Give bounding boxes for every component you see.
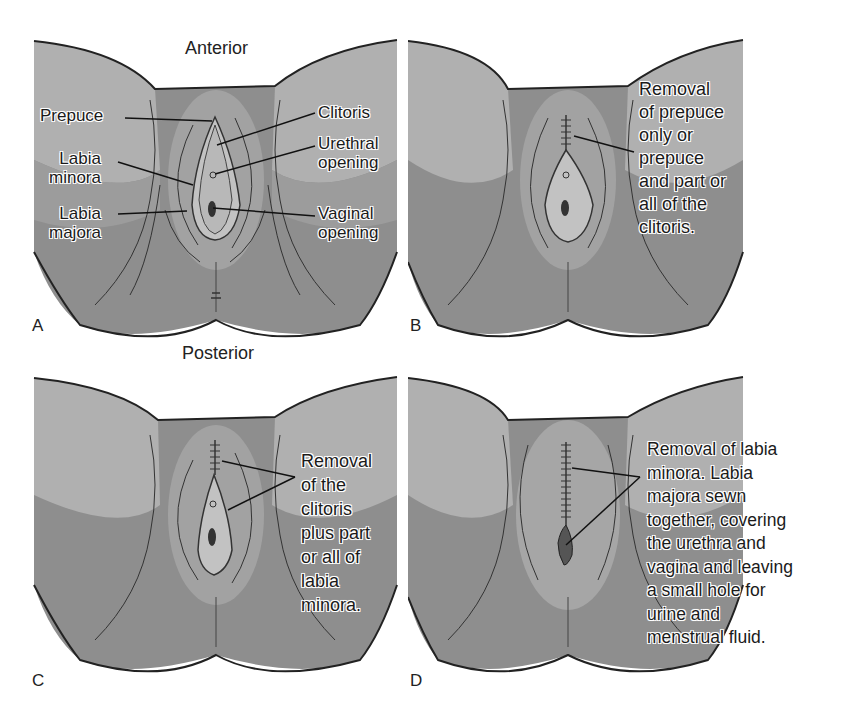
anatomy-illustration-type-1 (408, 0, 868, 345)
panel-c: Removal of the clitoris plus part or all… (0, 365, 434, 695)
caption-b: Removal of prepuce only or prepuce and p… (639, 78, 726, 239)
cropped-caption-fragment (0, 694, 868, 706)
anatomy-illustration-type-3 (408, 365, 868, 695)
label-labia-majora: Labia majora (49, 205, 101, 242)
label-prepuce: Prepuce (40, 107, 103, 126)
panel-letter-a: A (32, 316, 43, 336)
panel-letter-c: C (32, 671, 44, 691)
label-vaginal-opening: Vaginal opening (318, 205, 379, 242)
panel-letter-b: B (410, 316, 421, 336)
heading-posterior: Posterior (182, 343, 254, 364)
label-labia-minora: Labia minora (49, 150, 101, 187)
panel-letter-d: D (410, 671, 422, 691)
label-urethral-opening: Urethral opening (318, 135, 379, 172)
panel-b: Removal of prepuce only or prepuce and p… (408, 0, 868, 345)
label-clitoris: Clitoris (318, 104, 370, 123)
panel-a: Prepuce Labia minora Labia majora Clitor… (0, 0, 434, 345)
caption-c: Removal of the clitoris plus part or all… (301, 449, 372, 617)
caption-d: Removal of labia minora. Labia majora se… (647, 438, 793, 650)
panel-d: Removal of labia minora. Labia majora se… (408, 365, 868, 695)
